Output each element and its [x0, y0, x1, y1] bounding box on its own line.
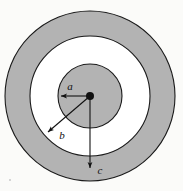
coaxial-cross-section-diagram: a b c — [0, 0, 183, 191]
radius-label-c: c — [98, 164, 103, 176]
radius-label-b: b — [59, 129, 65, 141]
radius-label-a: a — [67, 80, 73, 92]
center-point — [86, 92, 94, 100]
figure-container: a b c — [0, 0, 183, 191]
scan-speck — [9, 179, 11, 181]
